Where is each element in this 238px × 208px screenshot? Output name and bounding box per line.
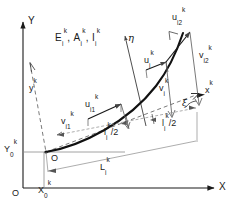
material-properties-label: Eik, Aik, Iik <box>55 33 100 43</box>
displacement-label-v-i2: vi2k <box>199 51 212 60</box>
prop-A: Aik <box>73 32 85 43</box>
displacement-label-v-i1: vi1k <box>61 117 74 126</box>
u-i2-sup: k <box>182 6 185 13</box>
local-y-base: y <box>29 83 34 93</box>
displacement-label-u-i: uik <box>144 56 154 65</box>
dimension-label-chord-length: Lik <box>100 163 110 172</box>
local-origin-label: O <box>51 154 58 163</box>
displacement-label-u-i2: ui2k <box>172 13 185 22</box>
local-x-axis-label: xk <box>205 86 213 95</box>
global-y-axis-label: Y <box>28 16 35 26</box>
X0-sub: 0 <box>44 192 48 199</box>
v-i-sub: i <box>164 90 165 97</box>
dimension-label-half-length-left: lik/2 <box>104 128 118 137</box>
local-x-base: x <box>205 85 210 95</box>
X0-sup: k <box>48 179 51 186</box>
local-y-axis <box>30 63 46 153</box>
v-i2-sub: i2 <box>204 57 209 64</box>
eta-axis <box>125 36 146 126</box>
v-i-base: v <box>159 83 164 93</box>
v-i1-sub: i1 <box>66 123 71 130</box>
prop-E: Eik <box>55 32 67 43</box>
displacement-label-v-i: vik <box>159 84 168 93</box>
angle-xi-arc <box>186 101 196 107</box>
u-i-sup: k <box>150 49 153 56</box>
displacement-vector-u-i2 <box>166 32 190 63</box>
l-right-suffix: /2 <box>169 118 177 128</box>
figure-canvas: Y X O Eik, Aik, Iik yk xk η O ξ ui1k vi1… <box>0 0 238 208</box>
local-y-axis-label: yk <box>29 84 37 93</box>
l-left-suffix: /2 <box>111 127 119 137</box>
eta-axis-label: η <box>128 33 134 43</box>
Y0-sup: k <box>14 138 17 145</box>
displacement-label-u-i1: ui1k <box>85 100 98 109</box>
v-i2-base: v <box>199 50 204 60</box>
v-i1-sup: k <box>71 110 74 117</box>
v-i2-sup: k <box>209 44 212 51</box>
prop-sep-2: , <box>86 32 92 43</box>
angle-xi-label: ξ <box>182 99 187 108</box>
node-coordinate-label-y0: Y0k <box>4 145 17 154</box>
local-x-sup: k <box>210 79 213 86</box>
node-coordinate-label-x0: X0k <box>38 186 51 195</box>
v-i1-base: v <box>61 116 66 126</box>
u-i1-sup: k <box>95 93 98 100</box>
Y0-sub: 0 <box>10 151 14 158</box>
local-y-sup: k <box>34 77 37 84</box>
global-origin-label: O <box>12 189 19 198</box>
l-left-sup: k <box>107 121 110 128</box>
dimension-label-half-length-right: lik/2 <box>162 119 176 128</box>
diagram-vector-layer <box>0 0 238 208</box>
prop-I: Iik <box>92 32 100 43</box>
u-i1-sub: i1 <box>90 106 95 113</box>
u-i2-sub: i2 <box>177 19 182 26</box>
l-right-sup: k <box>165 112 168 119</box>
global-x-axis-label: X <box>219 182 226 192</box>
L-sup: k <box>106 156 109 163</box>
v-i-sup: k <box>165 77 168 84</box>
